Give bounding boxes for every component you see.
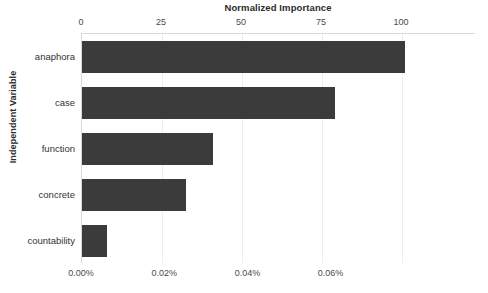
category-label: function — [42, 143, 75, 154]
category-label: countability — [27, 235, 75, 246]
top-tick-label: 50 — [236, 17, 246, 27]
bottom-tick-label: 0.00% — [68, 268, 94, 278]
chart-title: Normalized Importance — [81, 2, 475, 13]
bottom-tick-label: 0.06% — [318, 268, 344, 278]
bar[interactable] — [82, 179, 186, 211]
bottom-tick-label: 0.02% — [151, 268, 177, 278]
category-label: case — [55, 97, 75, 108]
bar-track — [82, 172, 475, 218]
bar[interactable] — [82, 41, 405, 73]
bottom-tick-label: 0.04% — [235, 268, 261, 278]
top-tick-label: 75 — [316, 17, 326, 27]
bar[interactable] — [82, 133, 213, 165]
plot-area — [81, 33, 475, 263]
top-tick-label: 25 — [156, 17, 166, 27]
bar[interactable] — [82, 87, 335, 119]
top-tick-label: 0 — [78, 17, 83, 27]
bar-track — [82, 218, 475, 264]
top-tick-label: 100 — [393, 17, 408, 27]
bar[interactable] — [82, 225, 107, 257]
category-label: concrete — [39, 189, 75, 200]
y-axis-title: Independent Variable — [8, 52, 18, 182]
bar-track — [82, 80, 475, 126]
bar-track — [82, 34, 475, 80]
chart-root: Normalized Importance 0255075100 anaphor… — [0, 0, 488, 293]
bar-track — [82, 126, 475, 172]
category-label: anaphora — [35, 51, 75, 62]
